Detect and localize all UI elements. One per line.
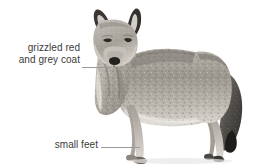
coyote-figure: grizzled red and grey coat small feet — [0, 0, 255, 167]
annotation-label-feet: small feet — [44, 139, 98, 151]
coyote-illustration — [0, 0, 255, 167]
annotation-coat-line1: grizzled red — [28, 42, 80, 53]
annotation-feet-line1: small feet — [55, 139, 98, 150]
leader-line-coat — [82, 67, 111, 68]
annotation-label-coat: grizzled red and grey coat — [18, 42, 80, 65]
annotation-coat-line2: and grey coat — [19, 54, 80, 65]
leader-line-feet — [101, 147, 140, 148]
